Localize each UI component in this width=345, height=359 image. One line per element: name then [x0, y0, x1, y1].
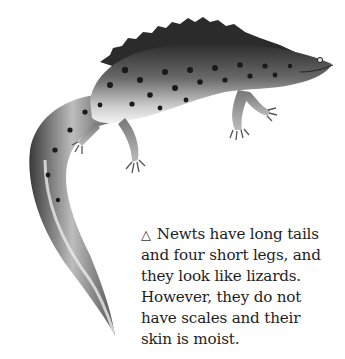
newt-front-leg [230, 90, 277, 140]
triangle-outline-icon: △ [141, 227, 151, 242]
figure-caption: △Newts have long tails and four short le… [141, 224, 345, 350]
caption-line-4: However, they do not [141, 287, 345, 308]
caption-line-1: △Newts have long tails [141, 224, 345, 245]
newt-eye [317, 57, 322, 62]
caption-line-2: and four short legs, and [141, 245, 345, 266]
caption-line-6: skin is moist. [141, 329, 345, 350]
caption-text: Newts have long tails [157, 225, 319, 243]
caption-line-3: they look like lizards. [141, 266, 345, 287]
caption-line-5: have scales and their [141, 308, 345, 329]
